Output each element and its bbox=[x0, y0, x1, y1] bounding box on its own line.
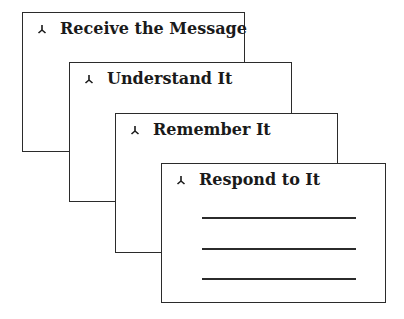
blank-line bbox=[202, 248, 356, 250]
card-title: Understand It bbox=[84, 69, 232, 88]
blank-line bbox=[202, 278, 356, 280]
card-label: Receive the Message bbox=[60, 19, 247, 38]
arrowhead-bullet-icon bbox=[37, 24, 47, 34]
card-label: Understand It bbox=[107, 69, 232, 88]
card-title: Receive the Message bbox=[37, 19, 247, 38]
card-respond: Respond to It bbox=[161, 163, 386, 303]
card-title: Respond to It bbox=[176, 170, 320, 189]
card-label: Remember It bbox=[153, 120, 271, 139]
arrowhead-bullet-icon bbox=[84, 74, 94, 84]
arrowhead-bullet-icon bbox=[130, 125, 140, 135]
blank-line bbox=[202, 217, 356, 219]
card-label: Respond to It bbox=[199, 170, 320, 189]
arrowhead-bullet-icon bbox=[176, 175, 186, 185]
card-title: Remember It bbox=[130, 120, 271, 139]
